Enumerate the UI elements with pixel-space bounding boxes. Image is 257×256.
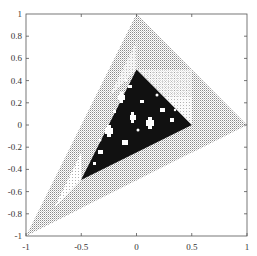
y-tick-label: 0.2 bbox=[11, 98, 22, 108]
y-tick-label: 1 bbox=[18, 9, 23, 19]
x-tick-labels: -1 -0.5 0 0.5 1 bbox=[22, 242, 249, 252]
fractal-plot: -1 -0.5 0 0.5 1 1 0.8 0.6 0.4 0.2 0 -0.2… bbox=[0, 0, 257, 256]
y-tick-label: -1 bbox=[15, 231, 23, 241]
x-tick-label: 0.5 bbox=[186, 242, 198, 252]
x-tick-label: 1 bbox=[245, 242, 250, 252]
y-tick-label: -0.8 bbox=[8, 209, 23, 219]
y-tick-label: -0.6 bbox=[8, 187, 23, 197]
y-tick-label: 0.6 bbox=[11, 53, 23, 63]
plot-svg: -1 -0.5 0 0.5 1 1 0.8 0.6 0.4 0.2 0 -0.2… bbox=[0, 0, 257, 256]
x-tick-label: -0.5 bbox=[74, 242, 89, 252]
y-tick-labels: 1 0.8 0.6 0.4 0.2 0 -0.2 -0.4 -0.6 -0.8 … bbox=[8, 9, 23, 241]
y-tick-label: -0.2 bbox=[8, 142, 22, 152]
y-tick-label: 0.8 bbox=[11, 31, 23, 41]
y-tick-label: 0.4 bbox=[11, 76, 23, 86]
x-tick-label: 0 bbox=[134, 242, 139, 252]
x-tick-label: -1 bbox=[22, 242, 30, 252]
y-tick-label: 0 bbox=[18, 120, 23, 130]
y-tick-label: -0.4 bbox=[8, 164, 23, 174]
